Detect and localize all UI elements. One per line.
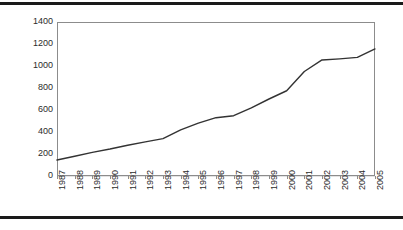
y-tick-label: 1200	[3, 39, 53, 48]
series-line-layer	[57, 22, 375, 176]
x-tick-1990: 1990	[104, 180, 116, 226]
series-1-line	[57, 49, 375, 160]
y-tick-label: 0	[3, 171, 53, 180]
y-tick-1200: 1200	[0, 39, 53, 48]
x-tick-1995: 1995	[192, 180, 204, 226]
x-tick-1999: 1999	[263, 180, 275, 226]
y-tick-200: 200	[0, 149, 53, 158]
y-tick-400: 400	[0, 127, 53, 136]
x-tick-2005: 2005	[369, 180, 381, 226]
x-tick-2002: 2002	[316, 180, 328, 226]
y-tick-label: 600	[3, 105, 53, 114]
x-tick-1998: 1998	[245, 180, 257, 226]
y-tick-label: 1000	[3, 61, 53, 70]
y-tick-800: 800	[0, 83, 53, 92]
line-chart: 0200400600800100012001400 19871988198919…	[0, 0, 403, 230]
x-tick-1987: 1987	[51, 180, 63, 226]
x-tick-2001: 2001	[298, 180, 310, 226]
x-tick-1996: 1996	[210, 180, 222, 226]
y-tick-1400: 1400	[0, 17, 53, 26]
y-tick-1000: 1000	[0, 61, 53, 70]
y-tick-label: 1400	[3, 17, 53, 26]
x-tick-1997: 1997	[228, 180, 240, 226]
y-tick-label: 400	[3, 127, 53, 136]
x-tick-1993: 1993	[157, 180, 169, 226]
y-tick-0: 0	[0, 171, 53, 180]
x-tick-label: 2005	[375, 170, 386, 190]
x-tick-1989: 1989	[86, 180, 98, 226]
x-tick-1992: 1992	[139, 180, 151, 226]
x-tick-1994: 1994	[175, 180, 187, 226]
x-tick-2004: 2004	[351, 180, 363, 226]
y-tick-label: 200	[3, 149, 53, 158]
y-tick-600: 600	[0, 105, 53, 114]
x-tick-2003: 2003	[334, 180, 346, 226]
x-tick-1991: 1991	[122, 180, 134, 226]
y-tick-label: 800	[3, 83, 53, 92]
x-tick-1988: 1988	[69, 180, 81, 226]
figure-container: 0200400600800100012001400 19871988198919…	[0, 0, 403, 230]
x-tick-2000: 2000	[281, 180, 293, 226]
